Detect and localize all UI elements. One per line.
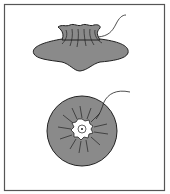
pouch-gathered-top	[58, 24, 100, 40]
pouch-diagram	[0, 0, 170, 194]
center-dot	[81, 128, 83, 130]
